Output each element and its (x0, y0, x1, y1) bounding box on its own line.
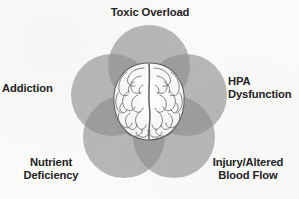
label-toxic-overload: Toxic Overload (86, 6, 214, 19)
brain-illustration (114, 63, 184, 140)
label-nutrient-deficiency: Nutrient Deficiency (8, 156, 94, 183)
label-addiction: Addiction (2, 82, 72, 95)
diagram-root: Toxic Overload Addiction HPA Dysfunction… (0, 0, 299, 199)
label-hpa-dysfunction: HPA Dysfunction (228, 75, 298, 102)
label-injury-altered-blood-flow: Injury/Altered Blood Flow (198, 156, 298, 183)
